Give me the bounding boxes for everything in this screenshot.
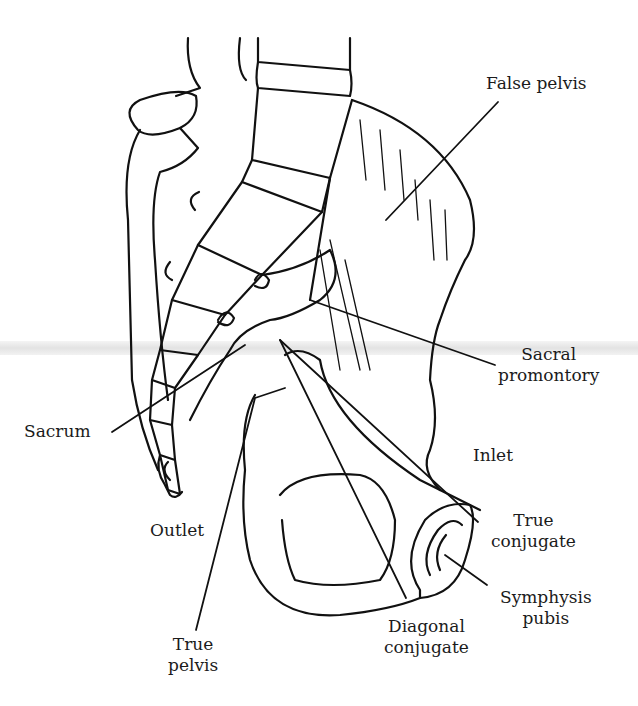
lumbar-vertebra xyxy=(176,38,352,178)
pelvis-diagram: False pelvis Sacral promontory Sacrum In… xyxy=(0,0,638,706)
label-sacrum: Sacrum xyxy=(24,421,91,442)
leader-diagonal-conjugate xyxy=(280,340,406,598)
symphysis-pubis xyxy=(411,504,473,598)
label-inlet: Inlet xyxy=(473,445,513,466)
iliac-wing xyxy=(310,100,474,380)
leader-true-pelvis xyxy=(196,388,285,630)
label-diagonal-conjugate: Diagonal conjugate xyxy=(384,616,469,658)
label-true-conjugate: True conjugate xyxy=(491,510,576,552)
label-true-pelvis: True pelvis xyxy=(168,634,218,676)
label-false-pelvis: False pelvis xyxy=(486,73,587,94)
label-outlet: Outlet xyxy=(150,520,204,541)
sacrum-body xyxy=(150,160,330,497)
posterior-ilium xyxy=(127,92,199,470)
leader-true-conjugate xyxy=(280,340,478,522)
leader-false-pelvis xyxy=(386,102,498,220)
label-symphysis-pubis: Symphysis pubis xyxy=(500,587,592,629)
label-sacral-promontory: Sacral promontory xyxy=(498,344,599,386)
leader-lines xyxy=(112,102,498,630)
